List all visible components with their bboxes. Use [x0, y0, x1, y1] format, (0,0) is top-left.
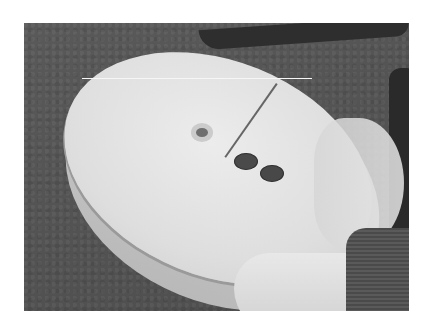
disc-hole-small — [196, 128, 208, 137]
sleeve — [346, 228, 409, 311]
scan-line — [82, 78, 312, 79]
disc-hole — [260, 165, 284, 182]
photo — [24, 23, 409, 311]
disc-hole — [234, 153, 258, 170]
